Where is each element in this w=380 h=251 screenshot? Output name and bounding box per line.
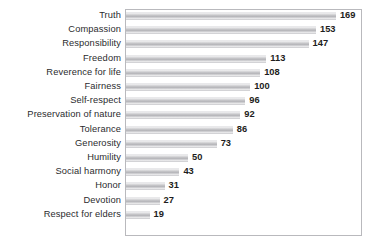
bar-track [126, 97, 245, 105]
bar-row: Truth169 [0, 9, 380, 23]
bar-track [126, 111, 240, 119]
bar-row: Reverence for life108 [0, 66, 380, 80]
bar [126, 111, 240, 119]
bar-value-label: 108 [264, 68, 280, 77]
bar-row: Honor31 [0, 179, 380, 193]
bar-track [126, 182, 165, 190]
bar [126, 126, 233, 134]
bar-row: Devotion27 [0, 193, 380, 207]
bar-category-label: Compassion [68, 26, 121, 35]
bar-value-label: 153 [320, 26, 336, 35]
bar-row: Self-respect96 [0, 94, 380, 108]
bar-track [126, 197, 160, 205]
bar-value-label: 169 [340, 11, 356, 20]
bar-value-label: 73 [221, 139, 231, 148]
bar [126, 168, 179, 176]
bar-row: Tolerance86 [0, 123, 380, 137]
bar-track [126, 26, 316, 34]
bar-track [126, 154, 188, 162]
bar-value-label: 86 [237, 125, 247, 134]
bar [126, 69, 260, 77]
bar-category-label: Social harmony [56, 168, 121, 177]
bar-category-label: Generosity [75, 139, 121, 148]
bar-track [126, 12, 336, 20]
bar [126, 26, 316, 34]
bar-value-label: 50 [192, 153, 202, 162]
bar [126, 197, 160, 205]
bar [126, 55, 266, 63]
bar [126, 97, 245, 105]
bar-category-label: Respect for elders [44, 210, 121, 219]
bar-chart: Truth169Compassion153Responsibility147Fr… [0, 0, 380, 251]
bar-track [126, 83, 250, 91]
bar-row: Respect for elders19 [0, 208, 380, 222]
bar-category-label: Humility [87, 153, 121, 162]
bar [126, 211, 150, 219]
bar-value-label: 92 [244, 111, 254, 120]
bar-row: Humility50 [0, 151, 380, 165]
bar-value-label: 147 [313, 40, 329, 49]
bar [126, 40, 309, 48]
bar-category-label: Responsibility [62, 40, 121, 49]
bar-value-label: 43 [183, 168, 193, 177]
bar-category-label: Freedom [83, 54, 121, 63]
bar [126, 154, 188, 162]
bar-track [126, 69, 260, 77]
bar-value-label: 96 [249, 97, 259, 106]
bar-row: Fairness100 [0, 80, 380, 94]
bar-value-label: 31 [169, 182, 179, 191]
bar-value-label: 113 [270, 54, 285, 63]
bar-row: Responsibility147 [0, 37, 380, 51]
bar-category-label: Devotion [84, 196, 122, 205]
bar-row: Compassion153 [0, 23, 380, 37]
bar-track [126, 211, 150, 219]
bar-category-label: Reverence for life [46, 68, 121, 77]
bar-row: Preservation of nature92 [0, 108, 380, 122]
bar [126, 12, 336, 20]
bar [126, 182, 165, 190]
bar-track [126, 168, 179, 176]
bar [126, 83, 250, 91]
bar-category-label: Preservation of nature [27, 111, 121, 120]
bar-track [126, 40, 309, 48]
bar-track [126, 55, 266, 63]
bar-value-label: 27 [164, 196, 174, 205]
bar-track [126, 140, 217, 148]
bar-category-label: Tolerance [80, 125, 121, 134]
bar-category-label: Honor [95, 182, 121, 191]
bar-row: Freedom113 [0, 52, 380, 66]
bar-category-label: Fairness [85, 82, 121, 91]
bar-rows-container: Truth169Compassion153Responsibility147Fr… [0, 9, 380, 236]
bar-track [126, 126, 233, 134]
bar-row: Generosity73 [0, 137, 380, 151]
bar-category-label: Truth [99, 11, 121, 20]
bar-value-label: 100 [254, 82, 270, 91]
bar-category-label: Self-respect [70, 97, 121, 106]
bar [126, 140, 217, 148]
bar-value-label: 19 [154, 210, 164, 219]
bar-row: Social harmony43 [0, 165, 380, 179]
